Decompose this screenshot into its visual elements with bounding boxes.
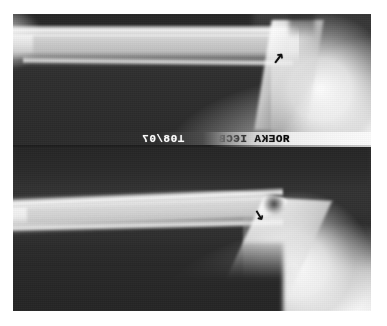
upper-cortical-notch <box>289 14 315 38</box>
photo-frame: ↗ ⊥08/07 ЯОЕКА ІЄСВ ↘ <box>0 0 387 326</box>
upper-medullary-canal <box>33 36 289 54</box>
lower-radiograph-panel: ↘ <box>13 147 371 311</box>
lower-dark-field-bottom-left <box>13 243 283 311</box>
film-annotation-right: ЯОЕКА ІЄСВ <box>209 133 299 145</box>
panel-seam-strip: ⊥08/07 ЯОЕКА ІЄСВ <box>13 132 371 147</box>
xray-plate: ↗ ⊥08/07 ЯОЕКА ІЄСВ ↘ <box>13 14 371 311</box>
lower-soft-tissue-shadow <box>13 147 371 191</box>
lower-cortical-notch <box>263 193 285 215</box>
upper-radiograph-panel: ↗ <box>13 14 371 132</box>
upper-cortex-superior <box>13 26 295 34</box>
arrow-marker-icon: ↗ <box>271 51 286 68</box>
film-annotation-left: ⊥08/07 <box>131 133 195 145</box>
